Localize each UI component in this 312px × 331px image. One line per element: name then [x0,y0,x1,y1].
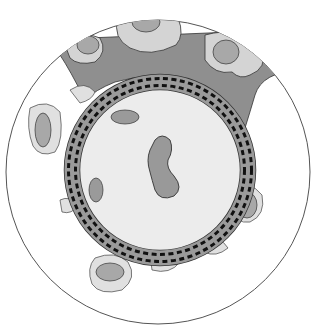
endothelial-nucleus [89,178,103,202]
endothelial-nucleus [111,110,139,124]
cross-section-diagram [0,0,312,331]
diagram-stage [0,0,312,331]
